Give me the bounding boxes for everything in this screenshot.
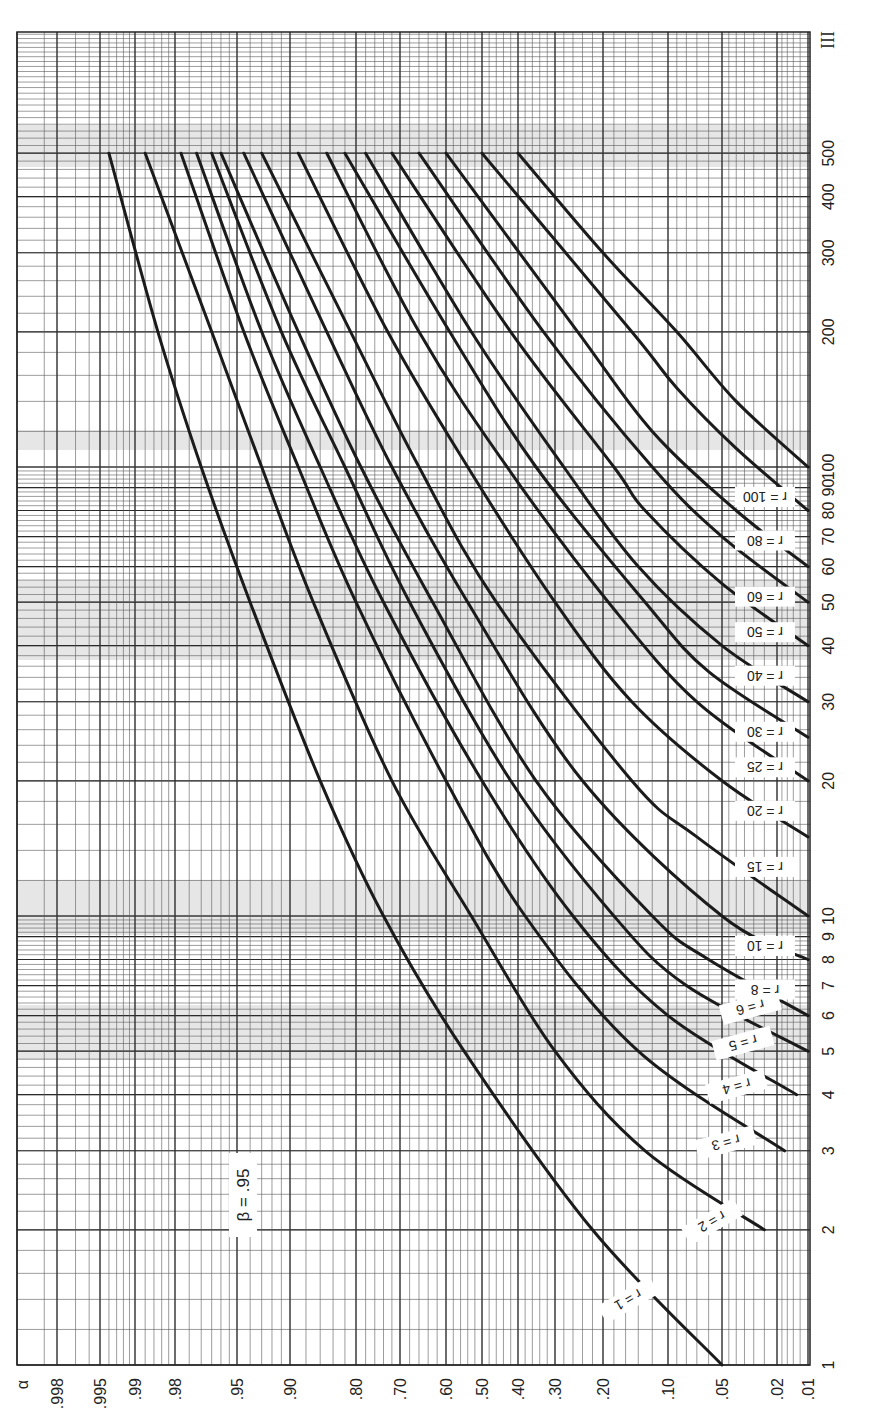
- curve-label-r-10: r = 10: [735, 936, 795, 956]
- beta-label: β = .95: [229, 1153, 257, 1237]
- n-tick-label: 6: [820, 1011, 837, 1020]
- alpha-tick-label: .05: [714, 1378, 731, 1400]
- n-tick-label: 60: [820, 558, 837, 576]
- alpha-tick-label: .10: [660, 1378, 677, 1400]
- n-tick-label: 80: [820, 502, 837, 520]
- alpha-tick-label: .90: [282, 1378, 299, 1400]
- curve-label-r-2: r = 2: [681, 1198, 743, 1245]
- n-tick-label: 200: [820, 318, 837, 345]
- alpha-tick-label: .998: [49, 1378, 66, 1409]
- curve-label-r-3: r = 3: [694, 1125, 757, 1160]
- n-tick-label: 100: [820, 454, 837, 481]
- svg-text:r = 8: r = 8: [751, 982, 780, 998]
- alpha-axis-labels: α.998.995.99.98.95.90.80.70.60.50.40.30.…: [14, 1378, 817, 1409]
- svg-text:r = 15: r = 15: [747, 859, 783, 875]
- n-tick-label: 9: [820, 932, 837, 941]
- curve-label-r-80: r = 80: [735, 531, 795, 551]
- n-tick-label: 3: [820, 1146, 837, 1155]
- n-tick-label: 50: [820, 593, 837, 611]
- page-marker: III: [818, 31, 838, 49]
- n-tick-label: 1: [820, 1360, 837, 1369]
- svg-text:r = 30: r = 30: [747, 724, 783, 740]
- n-tick-label: 500: [820, 140, 837, 167]
- n-tick-label: 30: [820, 693, 837, 711]
- curve-label-r-30: r = 30: [735, 722, 795, 742]
- alpha-tick-label: .30: [547, 1378, 564, 1400]
- svg-text:r = 40: r = 40: [747, 668, 783, 684]
- alpha-tick-label: .995: [92, 1378, 109, 1409]
- svg-text:r = 10: r = 10: [747, 938, 783, 954]
- n-tick-label: 400: [820, 183, 837, 210]
- page-number: III: [818, 31, 838, 49]
- svg-text:r = 25: r = 25: [747, 759, 783, 775]
- beta-text: β = .95: [234, 1169, 253, 1222]
- n-tick-label: 7: [820, 981, 837, 990]
- curve-label-r-50: r = 50: [735, 622, 795, 642]
- alpha-tick-label: .99: [127, 1378, 144, 1400]
- curve-label-r-15: r = 15: [735, 857, 795, 877]
- svg-text:r = 20: r = 20: [747, 803, 783, 819]
- curve-label-r-100: r = 100: [735, 487, 795, 507]
- svg-text:r = 50: r = 50: [747, 624, 783, 640]
- n-tick-label: 70: [820, 528, 837, 546]
- n-tick-label: 4: [820, 1090, 837, 1099]
- alpha-tick-label: .98: [167, 1378, 184, 1400]
- curve-r-1: [109, 153, 722, 1365]
- n-tick-label: 5: [820, 1047, 837, 1056]
- curve-label-r-25: r = 25: [735, 757, 795, 777]
- n-tick-label: 20: [820, 772, 837, 790]
- n-tick-label: 2: [820, 1225, 837, 1234]
- svg-text:r = 80: r = 80: [747, 533, 783, 549]
- n-axis-labels: 1234567891020304050607080901002003004005…: [820, 140, 837, 1370]
- n-tick-label: 8: [820, 955, 837, 964]
- alpha-tick-label: .80: [348, 1378, 365, 1400]
- curve-label-r-60: r = 60: [735, 587, 795, 607]
- curve-label-r-8: r = 8: [735, 980, 795, 1000]
- curves: [109, 153, 808, 1365]
- alpha-tick-label: .40: [510, 1378, 527, 1400]
- svg-text:r = 100: r = 100: [743, 489, 787, 505]
- alpha-tick-label: .50: [474, 1378, 491, 1400]
- n-tick-label: 10: [820, 907, 837, 925]
- svg-text:r = 60: r = 60: [747, 589, 783, 605]
- n-tick-label: 300: [820, 239, 837, 266]
- n-tick-label: 40: [820, 637, 837, 655]
- alpha-tick-label: .01: [800, 1378, 817, 1400]
- curve-label-r-1: r = 1: [597, 1276, 659, 1323]
- curve-label-r-40: r = 40: [735, 666, 795, 686]
- alpha-tick-label: .95: [229, 1378, 246, 1400]
- alpha-tick-label: .70: [392, 1378, 409, 1400]
- alpha-axis-title: α: [14, 1380, 31, 1389]
- curve-label-r-20: r = 20: [735, 801, 795, 821]
- alpha-tick-label: .20: [595, 1378, 612, 1400]
- alpha-tick-label: .02: [769, 1378, 786, 1400]
- alpha-tick-label: .60: [438, 1378, 455, 1400]
- curve-r-40: [392, 153, 808, 646]
- chart-svg: r = 1r = 2r = 3r = 4r = 5r = 6r = 8r = 1…: [0, 0, 872, 1417]
